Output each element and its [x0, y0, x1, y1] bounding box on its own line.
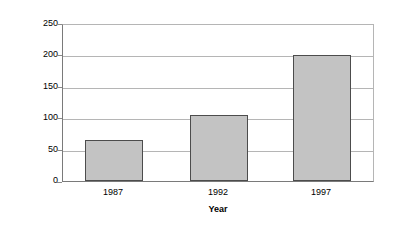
- plot-area: [62, 24, 374, 182]
- y-tick-label-50: 50: [24, 144, 58, 154]
- bar-chart-figure: Small Exporting Businesses (thousands) 2…: [0, 0, 394, 229]
- x-axis-tick-labels: 1987 1992 1997: [62, 186, 374, 200]
- bars-layer: [63, 25, 373, 181]
- bar-1987[interactable]: [85, 140, 143, 181]
- x-tick-label-1987: 1987: [73, 186, 153, 198]
- x-tick-label-1997: 1997: [281, 186, 361, 198]
- bar-1997[interactable]: [293, 55, 351, 181]
- y-axis-tick-labels: 250 200 150 100 50 0: [24, 18, 58, 188]
- y-tick-label-100: 100: [24, 112, 58, 122]
- y-tick-label-250: 250: [24, 18, 58, 28]
- x-axis-title: Year: [62, 203, 374, 215]
- x-tick-label-1992: 1992: [178, 186, 258, 198]
- y-tick-label-0: 0: [24, 175, 58, 185]
- y-tick-label-200: 200: [24, 49, 58, 59]
- y-tick-label-150: 150: [24, 81, 58, 91]
- y-tick-mark-0: [57, 182, 62, 183]
- bar-1992[interactable]: [190, 115, 248, 181]
